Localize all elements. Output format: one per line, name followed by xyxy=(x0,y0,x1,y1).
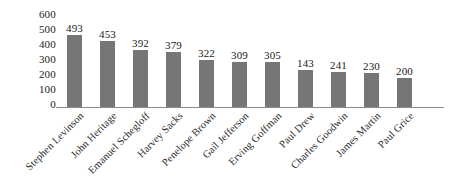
bar[interactable] xyxy=(232,62,247,107)
bar[interactable] xyxy=(298,70,313,107)
y-axis-tick-label: 500 xyxy=(2,24,56,35)
y-axis-tick-label: 200 xyxy=(2,69,56,80)
bar[interactable] xyxy=(265,62,280,107)
bar-value-label: 305 xyxy=(264,50,281,61)
bar[interactable] xyxy=(67,35,82,107)
plot-area: 493 453 392 379 322 309 305 143 xyxy=(56,8,448,108)
bar[interactable] xyxy=(133,50,148,107)
bar-value-label: 322 xyxy=(198,48,215,59)
bar[interactable] xyxy=(331,72,346,107)
bar-value-label: 309 xyxy=(231,50,248,61)
bar-value-label: 379 xyxy=(165,40,182,51)
bar[interactable] xyxy=(166,52,181,107)
y-axis-tick-label: 100 xyxy=(2,84,56,95)
y-axis-tick-label: 300 xyxy=(2,54,56,65)
bar-value-label: 230 xyxy=(363,61,380,72)
y-axis-tick-label: 400 xyxy=(2,39,56,50)
bar-chart: 600 500 400 300 200 100 0 493 453 392 37… xyxy=(0,0,453,191)
bar[interactable] xyxy=(199,60,214,107)
bar-value-label: 453 xyxy=(99,29,116,40)
bar-value-label: 241 xyxy=(330,60,347,71)
bar[interactable] xyxy=(364,73,379,107)
bar-value-label: 493 xyxy=(66,23,83,34)
bar[interactable] xyxy=(397,78,412,107)
bar-value-label: 200 xyxy=(396,66,413,77)
y-axis-tick-label: 0 xyxy=(2,99,56,110)
x-axis-category-labels: Stephen Levinson John Heritage Emanuel S… xyxy=(56,110,453,191)
x-axis-line xyxy=(56,107,444,108)
y-axis-tick-label: 600 xyxy=(2,9,56,20)
bar-value-label: 143 xyxy=(297,58,314,69)
bar[interactable] xyxy=(100,41,115,107)
bar-value-label: 392 xyxy=(132,38,149,49)
